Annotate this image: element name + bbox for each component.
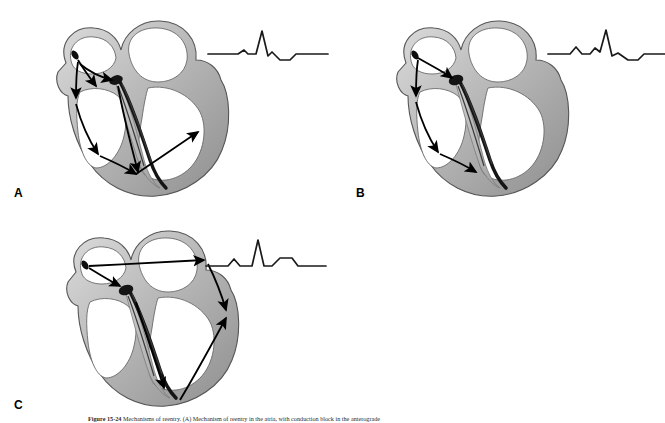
figure-caption-label: Figure 15-24 [88,415,121,422]
figure-caption: Figure 15-24 Mechanisms of reentry. (A) … [88,415,648,423]
figure-canvas: A B C Figure 15-24 Mechanisms of reentry… [0,0,665,423]
panel-b [352,8,662,208]
ecg-tracing-a [208,31,328,60]
figure-caption-text: Mechanisms of reentry. (A) Mechanism of … [123,415,380,422]
panel-label-a: A [14,186,23,200]
panel-label-b: B [356,186,365,200]
heart-cross-section-c [58,222,378,412]
ecg-tracing-c [206,240,326,266]
panel-a [8,8,328,208]
heart-cross-section-b [352,8,662,208]
ecg-tracing-b [548,30,665,60]
heart-cross-section-a [8,8,328,208]
panel-label-c: C [14,398,23,412]
panel-c [58,222,378,412]
